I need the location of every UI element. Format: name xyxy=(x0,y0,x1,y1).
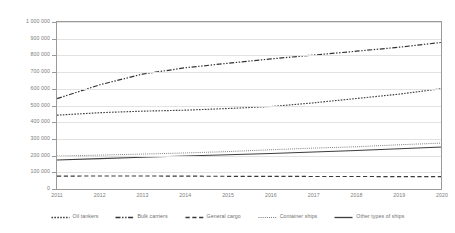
y-tick-label: 0 xyxy=(2,186,50,191)
x-axis-line xyxy=(56,189,442,190)
x-tick-label: 2019 xyxy=(379,193,419,198)
series-line-general-cargo xyxy=(57,176,442,177)
y-tick-mark xyxy=(52,72,56,73)
gridline xyxy=(57,72,442,73)
gridline xyxy=(57,39,442,40)
y-tick-mark xyxy=(52,139,56,140)
x-tick-label: 2015 xyxy=(208,193,248,198)
legend-item-bulk-carriers[interactable]: Bulk carriers xyxy=(115,214,167,221)
legend-item-other-types-of-ships[interactable]: Other types of ships xyxy=(334,214,404,221)
gridline xyxy=(57,139,442,140)
y-tick-label: 500 000 xyxy=(2,103,50,108)
x-tick-label: 2013 xyxy=(123,193,163,198)
plot-right-border xyxy=(441,21,442,190)
gridline xyxy=(57,55,442,56)
x-axis-tick-labels: 2011201220132014201520162017201820192020 xyxy=(57,193,442,203)
y-tick-label: 100 000 xyxy=(2,170,50,175)
gridline xyxy=(57,89,442,90)
x-tick-label: 2017 xyxy=(294,193,334,198)
legend-swatch-fine-dotted xyxy=(258,214,277,221)
gridline xyxy=(57,22,442,23)
legend-item-oil-tankers[interactable]: Oil tankers xyxy=(51,214,99,221)
x-tick-label: 2012 xyxy=(80,193,120,198)
y-tick-label: 1 000 000 xyxy=(2,19,50,24)
legend-label: Other types of ships xyxy=(356,214,404,219)
legend-swatch-dotted xyxy=(51,214,70,221)
y-tick-mark xyxy=(52,122,56,123)
legend-swatch-dash-dot-dot xyxy=(115,214,134,221)
y-tick-label: 600 000 xyxy=(2,86,50,91)
x-tick-label: 2020 xyxy=(422,193,455,198)
y-tick-label: 400 000 xyxy=(2,120,50,125)
x-tick-label: 2011 xyxy=(37,193,77,198)
legend-swatch-solid xyxy=(334,214,353,221)
y-tick-mark xyxy=(52,156,56,157)
merchant-fleet-line-chart: 0100 000200 000300 000400 000500 000600 … xyxy=(0,0,455,233)
y-tick-mark xyxy=(52,22,56,23)
y-tick-label: 800 000 xyxy=(2,53,50,58)
chart-legend: Oil tankersBulk carriersGeneral cargoCon… xyxy=(0,210,455,224)
legend-label: General cargo xyxy=(207,214,241,219)
gridline xyxy=(57,156,442,157)
y-axis-line xyxy=(56,21,57,190)
legend-label: Oil tankers xyxy=(73,214,99,219)
y-tick-mark xyxy=(52,172,56,173)
y-tick-mark xyxy=(52,89,56,90)
x-tick-label: 2018 xyxy=(336,193,376,198)
legend-item-general-cargo[interactable]: General cargo xyxy=(185,214,241,221)
plot-area xyxy=(57,22,442,189)
y-tick-label: 300 000 xyxy=(2,136,50,141)
legend-item-container-ships[interactable]: Container ships xyxy=(258,214,318,221)
legend-label: Container ships xyxy=(280,214,318,219)
series-line-other-types-of-ships xyxy=(57,147,442,160)
y-tick-label: 700 000 xyxy=(2,69,50,74)
legend-swatch-long-dash xyxy=(185,214,204,221)
y-tick-mark xyxy=(52,189,56,190)
legend-label: Bulk carriers xyxy=(137,214,167,219)
y-tick-mark xyxy=(52,106,56,107)
x-tick-label: 2014 xyxy=(165,193,205,198)
series-line-oil-tankers xyxy=(57,89,442,116)
plot-top-border xyxy=(56,21,442,22)
y-tick-mark xyxy=(52,55,56,56)
y-tick-label: 200 000 xyxy=(2,153,50,158)
x-tick-label: 2016 xyxy=(251,193,291,198)
series-line-bulk-carriers xyxy=(57,42,442,98)
gridline xyxy=(57,122,442,123)
y-tick-label: 900 000 xyxy=(2,36,50,41)
gridline xyxy=(57,172,442,173)
y-tick-mark xyxy=(52,39,56,40)
gridline xyxy=(57,106,442,107)
